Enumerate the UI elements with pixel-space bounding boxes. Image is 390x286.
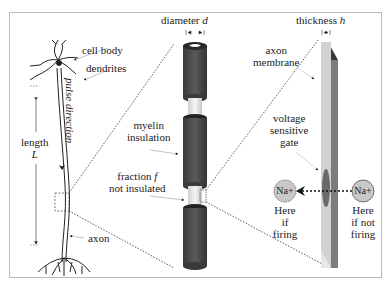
label-myelin-insulation: myelininsulation: [127, 119, 170, 143]
membrane-slab-icon: [321, 42, 338, 268]
ion-right-na: Na+: [352, 185, 374, 197]
caption-here-if-firing: Hereiffiring: [270, 204, 300, 240]
label-cell-body: cell body: [82, 44, 123, 56]
label-axon-membrane: axonmembrane: [253, 44, 299, 68]
label-diameter: diameter d: [161, 14, 208, 26]
label-thickness: thickness h: [296, 14, 345, 26]
label-dendrites: dendrites: [86, 62, 126, 74]
ion-left-na: Na+: [274, 185, 296, 197]
label-axon: axon: [88, 232, 109, 244]
label-length: lengthL: [21, 136, 49, 160]
label-voltage-sensitive-gate: voltagesensitivegate: [270, 112, 309, 148]
neuron-diagram-graphics: [0, 0, 390, 286]
label-fraction-not-insulated: fraction fnot insulated: [109, 170, 166, 194]
caption-here-if-not-firing: Hereif notfiring: [346, 204, 380, 240]
label-pulse-direction: pulse direction: [62, 78, 76, 168]
myelinated-axon-icon: [183, 42, 207, 270]
